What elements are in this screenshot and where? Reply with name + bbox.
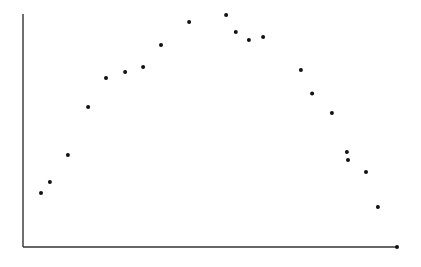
data-point [299,68,303,72]
plot-axes [23,14,399,249]
data-point [141,65,145,69]
data-point [376,205,380,209]
data-point [123,70,127,74]
x-axis-end-marker [395,245,399,249]
data-points [39,13,380,209]
data-point [224,13,228,17]
data-point [86,105,90,109]
data-point [310,92,314,96]
data-point [187,20,191,24]
data-point [364,170,368,174]
scatter-chart [0,0,421,267]
data-point [234,30,238,34]
data-point [66,153,70,157]
data-point [345,150,349,154]
data-point [48,180,52,184]
data-point [330,111,334,115]
data-point [261,35,265,39]
data-point [104,76,108,80]
data-point [346,158,350,162]
data-point [39,191,43,195]
data-point [159,43,163,47]
data-point [247,38,251,42]
